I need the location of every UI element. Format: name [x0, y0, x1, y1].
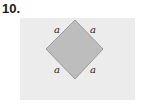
side-label-top-right: a — [90, 24, 96, 35]
side-label-bottom-left: a — [54, 64, 60, 75]
side-label-top-left: a — [54, 24, 60, 35]
side-label-bottom-right: a — [90, 64, 96, 75]
diamond-figure: a a a a — [0, 0, 142, 107]
